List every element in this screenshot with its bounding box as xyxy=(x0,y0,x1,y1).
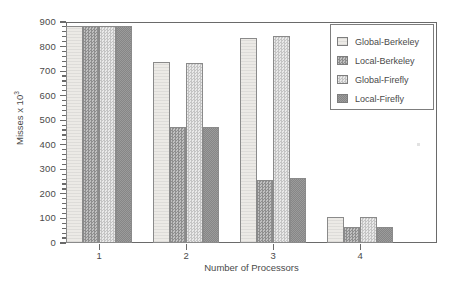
y-tick-label-wrap: 0 xyxy=(26,238,56,248)
bar xyxy=(290,178,307,243)
y-tick-label: 300 xyxy=(28,164,56,173)
scan-artifact xyxy=(417,143,420,146)
bar xyxy=(327,217,344,243)
y-tick-label-wrap: 100 xyxy=(26,213,56,223)
y-tick-label: 900 xyxy=(28,17,56,26)
y-axis-title: Misses x 103 xyxy=(13,73,25,163)
legend-item: Local-Firefly xyxy=(337,89,433,108)
y-tick-label: 0 xyxy=(28,238,56,247)
y-tick-label: 200 xyxy=(28,189,56,198)
bar xyxy=(257,180,274,243)
y-tick-label-wrap: 300 xyxy=(26,164,56,174)
y-axis-title-exponent: 3 xyxy=(13,91,20,95)
legend-item-label: Global-Berkeley xyxy=(355,37,419,47)
bar xyxy=(170,127,187,243)
y-tick-label: 700 xyxy=(28,66,56,75)
y-tick-label-wrap: 800 xyxy=(26,42,56,52)
y-tick-label: 100 xyxy=(28,213,56,222)
bar xyxy=(360,217,377,243)
y-tick-label-wrap: 500 xyxy=(26,115,56,125)
bar xyxy=(116,26,133,243)
legend-item: Global-Berkeley xyxy=(337,32,433,51)
y-tick-label: 800 xyxy=(28,42,56,51)
x-tick-4 xyxy=(360,244,361,250)
x-tick-3 xyxy=(273,244,274,250)
legend-swatch-icon xyxy=(337,56,348,65)
x-axis-title: Number of Processors xyxy=(66,262,437,273)
bar-chart-figure: 0100200300400500600700800900 Misses x 10… xyxy=(0,0,460,292)
y-tick-label-wrap: 400 xyxy=(26,140,56,150)
bar xyxy=(83,26,100,243)
x-tick-label: 3 xyxy=(261,250,285,261)
y-tick-label-wrap: 900 xyxy=(26,17,56,27)
legend-swatch-icon xyxy=(337,75,348,84)
y-tick-label-wrap: 600 xyxy=(26,91,56,101)
y-tick-label-wrap: 200 xyxy=(26,189,56,199)
bar xyxy=(66,26,83,243)
bar xyxy=(377,227,394,243)
y-axis-title-text: Misses x 10 xyxy=(14,95,25,145)
x-tick-2 xyxy=(186,244,187,250)
x-tick-label: 4 xyxy=(348,250,372,261)
bar xyxy=(240,38,257,243)
legend-item: Global-Firefly xyxy=(337,70,433,89)
bar xyxy=(99,26,116,243)
legend-item-label: Local-Firefly xyxy=(355,94,404,104)
x-tick-label: 1 xyxy=(87,250,111,261)
legend-swatch-icon xyxy=(337,94,348,103)
legend-item: Local-Berkeley xyxy=(337,51,433,70)
legend-swatch-icon xyxy=(337,37,348,46)
y-tick-label: 500 xyxy=(28,115,56,124)
bar xyxy=(273,36,290,243)
x-tick-label: 2 xyxy=(174,250,198,261)
y-tick-label-wrap: 700 xyxy=(26,66,56,76)
legend: Global-BerkeleyLocal-BerkeleyGlobal-Fire… xyxy=(330,24,434,110)
bar xyxy=(344,227,361,243)
legend-item-label: Local-Berkeley xyxy=(355,56,415,66)
x-tick-1 xyxy=(99,244,100,250)
y-tick-label: 400 xyxy=(28,140,56,149)
bar xyxy=(203,127,220,243)
y-tick-label: 600 xyxy=(28,91,56,100)
bar xyxy=(186,63,203,243)
bar xyxy=(153,62,170,243)
legend-item-label: Global-Firefly xyxy=(355,75,409,85)
